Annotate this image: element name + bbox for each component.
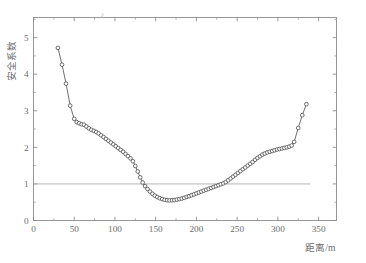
- data-point-marker: [64, 82, 68, 86]
- data-point-marker: [296, 126, 300, 130]
- x-tick-label: 50: [70, 224, 80, 234]
- y-tick-label: 5: [24, 33, 29, 43]
- x-tick-label: 200: [190, 224, 204, 234]
- data-point-marker: [68, 104, 72, 108]
- data-point-marker: [56, 46, 60, 50]
- data-point-marker: [138, 175, 142, 179]
- x-tick-label: 150: [149, 224, 163, 234]
- data-point-marker: [133, 164, 137, 168]
- data-point-marker: [305, 102, 309, 106]
- data-point-marker: [136, 170, 140, 174]
- x-tick-label: 100: [108, 224, 122, 234]
- chart-figure: 050100150200250300350012345距离/m安全系数: [0, 0, 366, 263]
- y-tick-label: 3: [24, 106, 29, 116]
- data-point-marker: [300, 113, 304, 117]
- data-point-marker: [72, 117, 76, 121]
- x-axis-label: 距离/m: [305, 242, 336, 253]
- x-tick-label: 0: [31, 224, 36, 234]
- y-axis-label: 安全系数: [7, 41, 18, 81]
- data-series: [56, 46, 308, 202]
- scan-artifact-mark: [101, 13, 103, 17]
- data-point-marker: [141, 181, 145, 185]
- data-point-marker: [60, 63, 64, 67]
- series-line: [58, 48, 306, 201]
- x-tick-label: 250: [230, 224, 244, 234]
- x-tick-label: 350: [312, 224, 326, 234]
- y-tick-label: 4: [24, 69, 29, 79]
- data-point-marker: [131, 159, 135, 163]
- data-point-marker: [292, 140, 296, 144]
- y-tick-label: 0: [24, 216, 29, 226]
- data-point-marker: [290, 144, 294, 148]
- safety-factor-vs-distance-chart: 050100150200250300350012345距离/m安全系数: [0, 0, 366, 263]
- plot-frame: [34, 18, 337, 221]
- y-tick-label: 1: [24, 179, 29, 189]
- y-tick-label: 2: [24, 143, 29, 153]
- x-tick-label: 300: [271, 224, 285, 234]
